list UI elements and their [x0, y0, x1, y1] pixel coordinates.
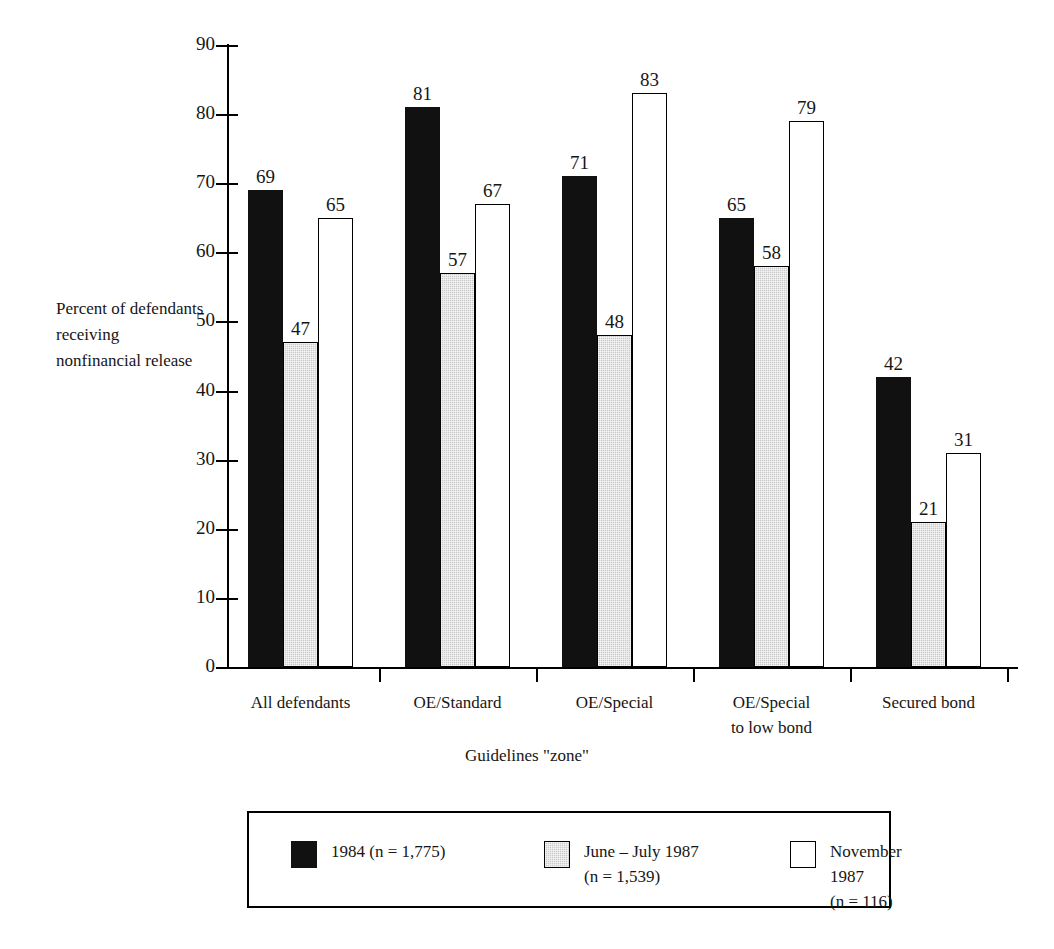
bar: 65 [318, 218, 353, 667]
legend-swatch-white [790, 841, 816, 868]
bar-value-label: 48 [605, 311, 624, 332]
legend-item[interactable]: June – July 1987 (n = 1,539) [544, 839, 699, 889]
y-axis-tick-mark [216, 114, 238, 116]
y-axis-tick-label: 20 [196, 517, 215, 539]
bar-value-label: 71 [570, 152, 589, 173]
bar-value-label: 31 [954, 429, 973, 450]
bar-value-label: 58 [762, 242, 781, 263]
bar-value-label: 69 [256, 166, 275, 187]
bar-value-label: 67 [483, 180, 502, 201]
y-axis-tick-mark [216, 183, 238, 185]
x-axis-category-label: OE/Special to low bond [687, 690, 857, 740]
y-axis-tick-mark [216, 667, 238, 669]
x-axis-separator-tick [379, 667, 381, 682]
y-axis-line [227, 44, 229, 668]
y-axis-tick-label: 0 [206, 655, 216, 677]
y-axis-tick-mark [216, 391, 238, 393]
bar: 71 [562, 176, 597, 667]
bar: 58 [754, 266, 789, 667]
y-axis-tick-label: 40 [196, 379, 215, 401]
y-axis-tick-label: 80 [196, 102, 215, 124]
bar: 48 [597, 335, 632, 667]
legend-swatch-dark [291, 841, 317, 868]
x-axis-separator-tick [536, 667, 538, 682]
y-axis-tick-mark [216, 598, 238, 600]
bar-value-label: 79 [797, 97, 816, 118]
y-axis-tick-label: 30 [196, 448, 215, 470]
bar: 81 [405, 107, 440, 667]
x-axis-separator-tick [1007, 667, 1009, 682]
x-axis-separator-tick [850, 667, 852, 682]
x-axis-category-label: Secured bond [844, 690, 1014, 715]
x-axis-category-label: All defendants [216, 690, 386, 715]
y-axis-tick-label: 10 [196, 586, 215, 608]
y-axis-tick-label: 90 [196, 33, 215, 55]
bar: 57 [440, 273, 475, 667]
legend-box: 1984 (n = 1,775)June – July 1987 (n = 1,… [247, 811, 891, 908]
legend-swatch-gray [544, 841, 570, 868]
bar-value-label: 21 [919, 498, 938, 519]
x-axis-category-label: OE/Special [530, 690, 700, 715]
y-axis-tick-mark [216, 252, 238, 254]
legend-item[interactable]: November 1987 (n = 116) [790, 839, 902, 914]
bar: 69 [248, 190, 283, 667]
bar: 65 [719, 218, 754, 667]
y-axis-tick-label: 60 [196, 240, 215, 262]
x-axis-category-label: OE/Standard [373, 690, 543, 715]
y-axis-tick-label: 70 [196, 171, 215, 193]
bar-value-label: 42 [884, 353, 903, 374]
bar: 31 [946, 453, 981, 667]
bar-value-label: 65 [727, 194, 746, 215]
y-axis-tick-mark [216, 529, 238, 531]
bar-value-label: 57 [448, 249, 467, 270]
bar: 42 [876, 377, 911, 667]
y-axis-tick-mark [216, 460, 238, 462]
bar-value-label: 83 [640, 69, 659, 90]
x-axis-line [227, 667, 1018, 669]
bar: 47 [283, 342, 318, 667]
bar: 67 [475, 204, 510, 667]
bar-value-label: 81 [413, 83, 432, 104]
y-axis-tick-mark [216, 321, 238, 323]
y-axis-tick-label: 50 [196, 309, 215, 331]
legend-item[interactable]: 1984 (n = 1,775) [291, 839, 445, 868]
y-axis-tick-mark [216, 45, 238, 47]
bar: 83 [632, 93, 667, 667]
bar-value-label: 47 [291, 318, 310, 339]
bar: 79 [789, 121, 824, 667]
plot-area: 0102030405060708090 69476581576771488365… [227, 44, 1018, 668]
bar-value-label: 65 [326, 194, 345, 215]
x-axis-separator-tick [693, 667, 695, 682]
legend-label: November 1987 (n = 116) [830, 839, 902, 914]
legend-label: June – July 1987 (n = 1,539) [584, 839, 699, 889]
x-axis-title: Guidelines "zone" [0, 746, 1054, 766]
legend-label: 1984 (n = 1,775) [331, 839, 445, 864]
bar: 21 [911, 522, 946, 667]
y-axis-title: Percent of defendants receiving nonfinan… [56, 296, 206, 374]
